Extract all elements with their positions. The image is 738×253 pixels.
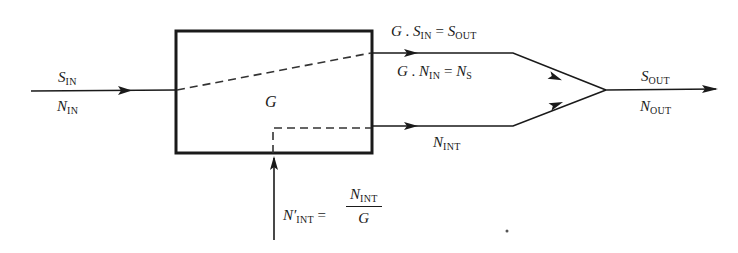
output-line xyxy=(606,85,718,93)
input-noise-subscript: IN xyxy=(67,105,78,116)
referred-noise-fraction: NINT G xyxy=(346,186,382,227)
bottom-branch-line xyxy=(372,90,606,130)
input-signal-symbol: S xyxy=(58,69,66,85)
bottom-noise-subscript: INT xyxy=(443,141,461,152)
bottom-noise-symbol: N xyxy=(433,134,443,150)
eq2-dot: . xyxy=(412,63,416,79)
internal-noise-branch-label: NINT xyxy=(433,135,461,152)
referred-noise-subscript: INT xyxy=(296,214,314,225)
eq1-equals: = xyxy=(436,23,444,39)
eq2-source-noise: N xyxy=(456,63,466,79)
output-signal-label: SOUT xyxy=(641,69,670,86)
eq1-signal: S xyxy=(413,23,421,39)
eq2-noise: N xyxy=(419,63,429,79)
output-noise-subscript: OUT xyxy=(650,105,671,116)
top-merge-arrow-icon xyxy=(548,71,564,84)
fraction-denominator: G xyxy=(346,207,382,227)
output-noise-label: NOUT xyxy=(640,99,671,116)
output-noise-symbol: N xyxy=(640,98,650,114)
eq2-gain: G xyxy=(397,63,408,79)
input-signal-subscript: IN xyxy=(66,76,77,87)
dashed-signal-path xyxy=(177,53,371,90)
eq1-signal-subscript: IN xyxy=(421,30,432,41)
eq2-noise-subscript: IN xyxy=(429,70,440,81)
eq2-equals: = xyxy=(444,63,452,79)
numerator-subscript: INT xyxy=(360,193,378,204)
input-noise-symbol: N xyxy=(57,98,67,114)
signal-gain-equation: G . SIN = SOUT xyxy=(391,24,477,41)
input-signal-label: SIN xyxy=(58,70,77,87)
eq1-gain: G xyxy=(391,23,402,39)
block-gain-label: G xyxy=(265,94,277,110)
internal-noise-line xyxy=(270,156,278,240)
numerator-symbol: N xyxy=(350,186,360,202)
referred-noise-equals: = xyxy=(318,207,326,223)
gain-block xyxy=(176,31,372,153)
dashed-noise-path xyxy=(273,128,371,153)
referred-noise-lhs: N′INT = xyxy=(283,208,326,225)
input-line xyxy=(31,86,176,95)
output-signal-symbol: S xyxy=(641,68,649,84)
eq1-dot: . xyxy=(406,23,410,39)
fraction-numerator: NINT xyxy=(346,186,382,207)
noise-gain-equation: G . NIN = NS xyxy=(397,64,472,81)
eq1-output-subscript: OUT xyxy=(455,30,476,41)
referred-noise-symbol: N′ xyxy=(283,207,296,223)
input-noise-label: NIN xyxy=(57,99,78,116)
output-signal-subscript: OUT xyxy=(649,75,670,86)
eq2-source-subscript: S xyxy=(466,70,472,81)
stray-dot xyxy=(506,230,509,233)
